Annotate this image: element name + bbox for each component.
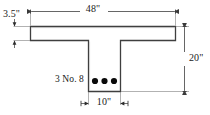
flange-thickness-label: 3.5" <box>3 9 20 19</box>
flange-width-label: 48" <box>86 4 100 14</box>
web-width-label: 10" <box>97 97 111 107</box>
total-depth-label: 20" <box>189 53 203 63</box>
flange-width-dimension-group <box>31 10 176 26</box>
rebar-group <box>92 78 117 84</box>
web-width-arrow-left <box>120 102 124 106</box>
t-beam-cross-section-figure: 48" 3.5" 20" 10" 3 No. 8 <box>0 0 210 115</box>
flange-thickness-arrow-down <box>13 22 17 26</box>
flange-thickness-arrow-up <box>13 41 17 45</box>
rebar-bar-2 <box>101 78 107 84</box>
rebar-bar-3 <box>111 78 117 84</box>
web-width-arrow-right <box>85 102 89 106</box>
rebar-bar-1 <box>92 78 98 84</box>
flange-thickness-dimension-group <box>13 19 30 48</box>
rebar-callout-label: 3 No. 8 <box>55 75 84 85</box>
